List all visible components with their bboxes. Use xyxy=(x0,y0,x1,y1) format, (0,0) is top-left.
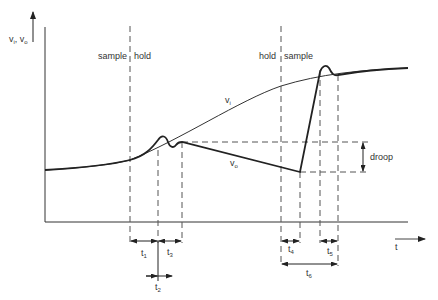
phase-label-sample-1: sample xyxy=(98,51,127,61)
t3-label: t3 xyxy=(167,247,174,258)
vi-input-curve xyxy=(45,68,408,170)
t4-label: t4 xyxy=(288,244,295,255)
t6-label: t6 xyxy=(306,268,313,279)
phase-label-sample-2: sample xyxy=(284,51,313,61)
phase-label-hold-2: hold xyxy=(259,51,276,61)
droop-label: droop xyxy=(370,152,393,162)
sample-hold-timing-diagram: vi, vo t sample hold hold sample vi vo d… xyxy=(0,0,438,300)
vo-curve-label: vo xyxy=(230,158,239,169)
phase-label-hold-1: hold xyxy=(134,51,151,61)
time-axis-label: t xyxy=(395,242,398,252)
t1-label: t1 xyxy=(141,248,148,259)
t2-label: t2 xyxy=(155,282,162,293)
t5-label: t5 xyxy=(327,246,334,257)
y-axis-label: vi, vo xyxy=(9,34,28,45)
vi-curve-label: vi xyxy=(225,95,231,106)
vo-output-curve xyxy=(45,66,408,172)
